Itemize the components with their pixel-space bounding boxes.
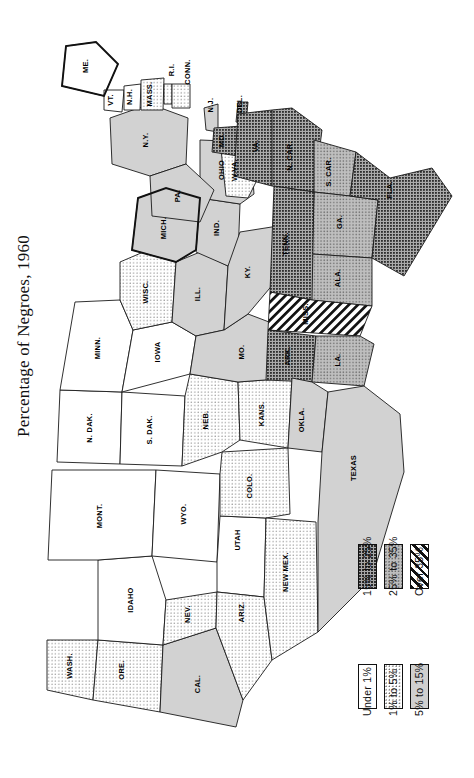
legend-label-5-15: 5% to 15% [413, 630, 425, 716]
state-label-mo: MO. [237, 345, 246, 360]
legend-item-5-15: 5% to 15% [410, 664, 474, 698]
state-label-wva: W.VA. [230, 159, 239, 181]
state-label-utah: UTAH [233, 529, 242, 550]
state-label-ill: ILL. [193, 287, 202, 301]
state-conn [172, 84, 190, 108]
state-ore [93, 640, 163, 712]
state-label-pa: PA. [173, 190, 182, 203]
legend-label-over-35: Over 35% [413, 510, 425, 596]
state-label-ncar: N. CAR. [285, 141, 294, 171]
state-label-kans: KANS. [257, 402, 266, 427]
state-okla [288, 378, 328, 452]
state-label-miss: MISS. [301, 303, 310, 325]
state-label-iowa: IOWA [153, 341, 162, 362]
state-label-ky: KY. [243, 266, 252, 278]
state-label-okla: OKLA. [297, 408, 306, 433]
state-label-ore: ORE. [117, 660, 126, 679]
state-label-wash: WASH. [65, 653, 74, 679]
state-label-ri: R.I. [167, 64, 176, 77]
state-label-mont: MONT. [95, 504, 104, 529]
state-label-cal: CAL. [193, 675, 202, 693]
state-label-vt: VT. [106, 94, 115, 106]
map-legend: 15% to 25% 25% to 35% Over 35% Under 1% … [360, 524, 468, 774]
state-label-fla: FLA. [385, 181, 394, 199]
legend-label-25-35: 25% to 35% [387, 510, 399, 596]
state-scar [314, 140, 356, 196]
state-label-neb: NEB. [201, 411, 210, 430]
state-label-tenn: TENN. [281, 232, 290, 256]
state-label-scar: S. CAR. [324, 157, 333, 186]
state-label-ind: IND. [212, 220, 221, 236]
state-ga [312, 192, 378, 258]
state-tenn [270, 186, 314, 300]
legend-label-1-5: 1% to 5% [387, 630, 399, 716]
state-ri [164, 84, 172, 104]
state-label-me: ME. [81, 59, 90, 73]
state-label-sdak: S. DAK. [145, 415, 154, 444]
legend-label-under-1: Under 1% [361, 630, 373, 716]
state-la [312, 336, 374, 386]
state-label-va: VA. [251, 140, 260, 153]
state-utah [217, 516, 266, 597]
state-label-ga: GA. [335, 215, 344, 229]
state-label-idaho: IDAHO [126, 587, 135, 612]
state-colo [220, 448, 290, 518]
state-label-ohio: OHIO [217, 160, 226, 180]
state-label-ark: ARK. [283, 346, 292, 365]
state-label-ala: ALA. [333, 269, 342, 287]
state-label-wisc: WISC. [141, 281, 150, 304]
state-label-conn: CONN. [183, 59, 192, 84]
state-label-nj: N.J. [206, 98, 215, 113]
state-label-la: LA. [333, 354, 342, 367]
legend-item-over-35: Over 35% [410, 544, 474, 578]
state-label-minn: MINN. [93, 337, 102, 359]
state-label-del: DEL. [235, 95, 244, 113]
state-label-mass: MASS. [145, 82, 154, 107]
legend-label-15-25: 15% to 25% [361, 510, 373, 596]
state-label-ny: N.Y. [141, 133, 150, 148]
state-label-nh: N.H. [125, 89, 134, 105]
state-label-newmex: NEW MEX. [281, 552, 290, 592]
state-label-ariz: ARIZ. [237, 602, 246, 623]
state-label-texas: TEXAS [349, 455, 358, 481]
state-label-colo: COLO. [245, 474, 254, 499]
state-label-md: MD. [217, 133, 226, 147]
state-newmex [264, 518, 318, 660]
state-label-nev: NEV. [183, 605, 192, 623]
state-label-mich: MICH. [159, 217, 168, 239]
state-label-ndak: N. DAK. [85, 413, 94, 443]
state-label-wyo: WYO. [179, 504, 188, 525]
legend-group-low: Under 1% 1% to 5% 5% to 15% [358, 664, 454, 766]
